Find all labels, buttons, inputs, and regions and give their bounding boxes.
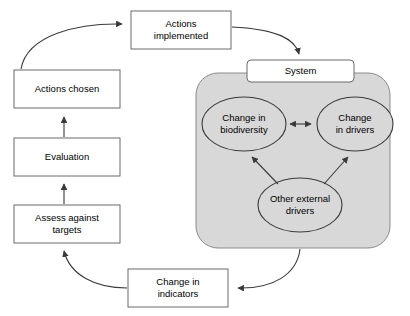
box-system[interactable] [247,60,354,82]
diagram-canvas: Actions implemented Actions chosen Evalu… [0,0,410,316]
box-evaluation[interactable] [14,138,120,176]
ellipse-other-external-drivers [258,178,342,232]
connector-actions-implemented-to-system [232,27,299,54]
box-actions-chosen[interactable] [14,70,120,108]
box-change-in-indicators[interactable] [128,269,228,307]
box-assess-against-targets[interactable] [14,205,120,243]
box-actions-implemented[interactable] [131,11,231,49]
ellipse-change-in-biodiversity [202,97,286,151]
connector-actions-chosen-to-actions-implemented [21,24,122,69]
diagram-svg [0,0,410,316]
connector-change-in-indicators-to-assess-against-targets [64,251,127,288]
ellipse-change-in-drivers [317,97,393,151]
connector-system-to-change-in-indicators [238,249,300,288]
